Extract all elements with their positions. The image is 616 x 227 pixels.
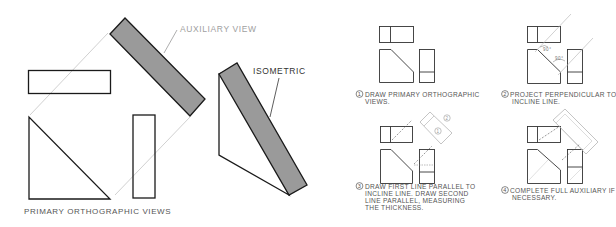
step4-top-rect <box>528 127 561 143</box>
auxiliary-leader-line <box>164 30 177 53</box>
step-number: 2 <box>503 91 507 97</box>
step-number: 1 <box>358 91 362 97</box>
step4-faint-line <box>570 168 582 180</box>
caption-line: DRAW FIRST LINE PARALLEL TO <box>365 183 475 190</box>
step-4-caption: 4 COMPLETE FULL AUXILIARY IF NECESSARY. <box>502 187 616 201</box>
step-3-caption: 3 DRAW FIRST LINE PARALLEL TO INCLINE LI… <box>356 183 475 211</box>
caption-line: INCLINE LINE. <box>512 98 560 105</box>
caption-line: DRAW PRIMARY ORTHOGRAPHIC <box>365 91 480 98</box>
projection-line <box>30 33 108 115</box>
step3-dashed-projection <box>392 120 412 140</box>
step4-dashed-projection <box>562 144 580 160</box>
step4-auxiliary-outer <box>553 109 598 154</box>
circled-mark-number: 2 <box>445 116 448 121</box>
step-2-caption: 2 PROJECT PERPENDICULAR TO INCLINE LINE. <box>502 91 616 105</box>
angle-label: 90° <box>555 56 564 61</box>
step1-top-rect <box>380 27 414 43</box>
circled-mark-number: 1 <box>436 129 439 134</box>
caption-line: NECESSARY. <box>512 194 557 201</box>
auxiliary-view-label: AUXILIARY VIEW <box>180 24 257 34</box>
step3-front-shape <box>381 150 413 184</box>
auxiliary-view-diagram: AUXILIARY VIEW ISOMETRIC PRIMARY ORTHOGR… <box>0 0 616 227</box>
isometric-leader-line <box>270 78 279 117</box>
step4-faint-line <box>529 160 548 180</box>
step-3-diagram: 2 1 <box>381 112 453 184</box>
caption-line: PROJECT PERPENDICULAR TO <box>510 91 616 98</box>
caption-line: INCLINE LINE. DRAW SECOND <box>365 190 469 197</box>
primary-views-label: PRIMARY ORTHOGRAPHIC VIEWS <box>24 207 171 216</box>
step3-dashed-projection <box>414 146 432 164</box>
step3-top-rect <box>381 127 413 143</box>
step1-side-rect <box>420 50 435 83</box>
step4-auxiliary-inner <box>556 114 592 150</box>
step2-top-rect <box>528 27 561 43</box>
step4-side-rect <box>568 150 583 184</box>
step-number: 3 <box>358 183 362 189</box>
step3-side-rect <box>420 150 435 184</box>
step1-front-shape <box>380 50 414 83</box>
caption-line: COMPLETE FULL AUXILIARY IF <box>510 187 615 194</box>
step-4-diagram <box>528 109 599 184</box>
projection-line <box>115 117 190 195</box>
step2-front-shape <box>528 50 561 84</box>
step-1-diagram <box>380 27 435 83</box>
isometric-label: ISOMETRIC <box>253 66 306 76</box>
left-panel: AUXILIARY VIEW ISOMETRIC PRIMARY ORTHOGR… <box>24 18 307 216</box>
caption-line: VIEWS. <box>365 98 390 105</box>
step-1-caption: 1 DRAW PRIMARY ORTHOGRAPHIC VIEWS. <box>356 91 480 105</box>
caption-line: LINE PARALLEL, MEASURING <box>365 197 465 204</box>
step3-thickness-line <box>424 116 434 126</box>
step4-front-shape <box>528 150 561 184</box>
step-number: 4 <box>503 187 507 193</box>
step-2-diagram: 90° 90° <box>528 14 594 84</box>
perpendicular-line-1 <box>535 14 571 52</box>
step4-dashed-projection <box>539 126 560 140</box>
step2-side-rect <box>568 50 583 84</box>
angle-label: 90° <box>543 47 552 52</box>
caption-line: THE THICKNESS. <box>365 204 424 211</box>
front-view-triangle <box>29 117 110 199</box>
